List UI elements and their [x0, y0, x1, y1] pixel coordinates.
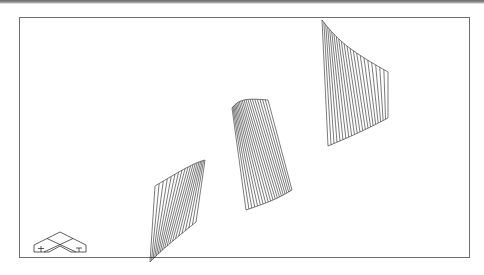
small-twisted-sheet: [150, 160, 205, 262]
isometric-axis-icon: [34, 232, 86, 252]
medium-twisted-sheet: [232, 99, 292, 210]
large-twisted-sheet: [322, 20, 388, 146]
drawing-canvas: [0, 0, 484, 275]
